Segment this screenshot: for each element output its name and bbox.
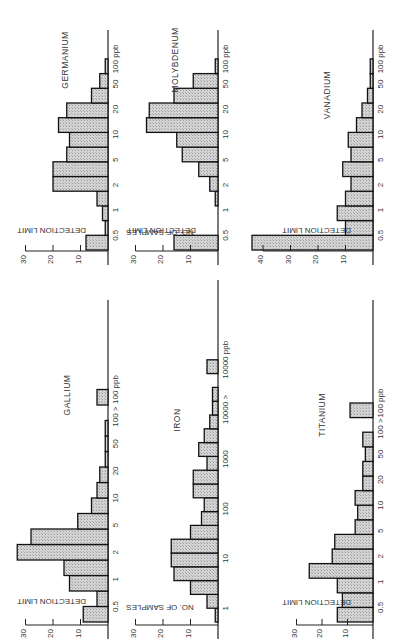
x-tick-label: 10000 > (221, 395, 230, 424)
histogram-bar (363, 476, 373, 491)
histogram-bar (215, 59, 218, 74)
histogram-bar (362, 103, 373, 118)
histogram-bar (97, 191, 108, 206)
y-tick-label: 30 (19, 628, 28, 637)
x-tick-label: 5 (376, 528, 385, 533)
histogram-bar (363, 461, 373, 476)
x-tick-label: 5 (111, 157, 120, 162)
histogram-bar (17, 545, 108, 561)
histogram-bar (100, 467, 108, 483)
histogram-bar (348, 132, 373, 147)
x-tick-label: 2 (376, 182, 385, 187)
y-tick-label: 10 (184, 254, 193, 263)
x-tick-label: 5 (221, 157, 230, 162)
histogram-bar (171, 539, 218, 553)
histogram-bar (346, 191, 374, 206)
y-tick-label: 30 (129, 628, 138, 637)
y-tick-label: 30 (19, 254, 28, 263)
x-tick-label: 5 (111, 522, 120, 527)
panel-title: MOLYBDENUM (170, 27, 180, 92)
histogram-bar (182, 147, 218, 162)
histogram-bar (204, 498, 218, 512)
histogram-bar (337, 206, 373, 221)
histogram-panel-vanadium: 102030400.5125102050100 ppbVANADIUMDETEC… (252, 30, 385, 265)
y-tick-label: 10 (184, 628, 193, 637)
histogram-bar (363, 432, 373, 447)
x-tick-label: 100 > (376, 418, 385, 439)
y-tick-label: 10 (74, 254, 83, 263)
y-tick-label: 10 (341, 628, 350, 637)
histogram-bar (368, 88, 374, 103)
histogram-bar (350, 403, 373, 418)
histogram-bar (67, 103, 108, 118)
histogram-bar (105, 421, 108, 437)
y-tick-label: 10 (74, 628, 83, 637)
x-tick-label: 50 (111, 439, 120, 448)
histogram-bar (100, 74, 108, 89)
x-tick-label: 20 (376, 104, 385, 113)
histogram-bar (370, 74, 373, 89)
histogram-figure: 1020300.5125102050100 >100 ppbGALLIUMDET… (0, 0, 400, 639)
y-tick-label: 20 (46, 254, 55, 263)
x-tick-label: 100 ppb (111, 44, 120, 73)
x-tick-label: 2 (376, 554, 385, 559)
x-tick-label: 0.5 (376, 601, 385, 613)
histogram-bar (355, 491, 373, 506)
panel-title: IRON (172, 408, 182, 431)
x-tick-label: 10 (221, 130, 230, 139)
histogram-bar (97, 591, 108, 607)
panel-title: GALLIUM (62, 375, 72, 416)
histogram-panel-titanium: 1020300.5125102050100 >100 ppbTITANIUMDE… (282, 300, 385, 639)
histogram-bar (147, 118, 219, 133)
histogram-bar (92, 498, 109, 514)
y-tick-label: 20 (156, 254, 165, 263)
histogram-bar (92, 88, 109, 103)
x-tick-label: 1 (221, 605, 230, 610)
histogram-bar (191, 525, 219, 539)
histogram-bar (213, 387, 219, 401)
y-tick-label: 10 (339, 254, 348, 263)
x-tick-label: 0.5 (111, 229, 120, 241)
y-axis-label: NO. OF SAMPLES (126, 603, 194, 612)
histogram-bar (70, 576, 109, 592)
x-tick-label: 2 (111, 182, 120, 187)
detection-limit-annotation: DETECTION LIMIT (282, 598, 351, 607)
figure-canvas: 1020300.5125102050100 >100 ppbGALLIUMDET… (0, 0, 400, 639)
x-tick-label: 10 (111, 130, 120, 139)
histogram-bar (199, 443, 218, 457)
y-tick-label: 40 (256, 254, 265, 263)
x-tick-label: 1 (376, 579, 385, 584)
histogram-bar (210, 415, 218, 429)
x-tick-label: 50 (111, 79, 120, 88)
histogram-bar (105, 221, 108, 236)
x-tick-label: 100 > (111, 406, 120, 427)
histogram-bar (31, 529, 108, 545)
y-axis-label: NO. OF SAMPLES (126, 228, 194, 237)
histogram-bar (337, 607, 373, 622)
detection-limit-annotation: DETECTION LIMIT (282, 226, 351, 235)
histogram-bar (171, 553, 218, 567)
histogram-bar (365, 447, 373, 462)
x-tick-label: 1 (111, 577, 120, 582)
x-tick-label: 1 (111, 207, 120, 212)
x-tick-label: 100 ppb (376, 44, 385, 73)
x-tick-label: 1000 (221, 450, 230, 468)
histogram-bar (86, 235, 108, 250)
histogram-bar (53, 162, 108, 177)
x-tick-label: 10 (221, 554, 230, 563)
histogram-bar (207, 456, 218, 470)
histogram-bar (337, 578, 373, 593)
x-tick-label: 2 (111, 549, 120, 554)
x-tick-label: 1 (376, 207, 385, 212)
histogram-bar (177, 132, 218, 147)
histogram-bar (207, 594, 218, 608)
histogram-bar (358, 505, 373, 520)
histogram-bar (210, 177, 218, 192)
histogram-bar (335, 534, 373, 549)
histogram-bar (59, 118, 109, 133)
histogram-bar (105, 59, 108, 74)
histogram-bar (215, 191, 218, 206)
histogram-bar (174, 88, 218, 103)
x-tick-label: 50 (376, 449, 385, 458)
histogram-bar (309, 564, 373, 579)
